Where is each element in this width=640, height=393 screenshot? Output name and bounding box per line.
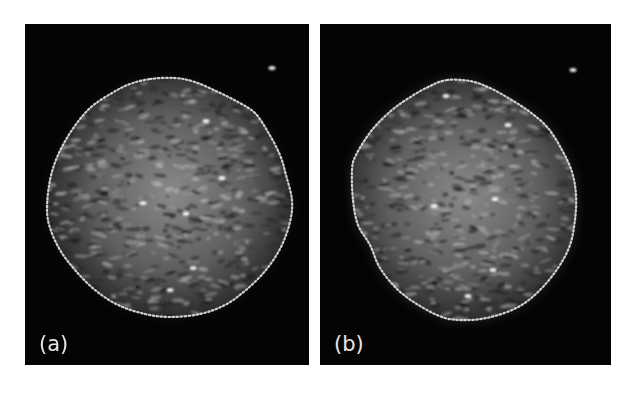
- speckle-image-a: [25, 24, 309, 365]
- panel-label-b: (b): [334, 334, 364, 355]
- speckle-image-b: [320, 24, 611, 365]
- image-panel-b: (b): [320, 24, 611, 365]
- image-panel-a: (a): [25, 24, 309, 365]
- panel-label-a: (a): [39, 334, 68, 355]
